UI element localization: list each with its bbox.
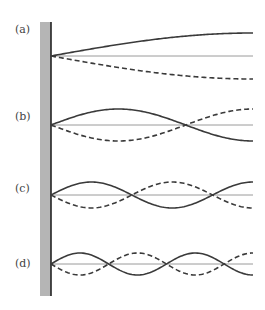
panel-a-wave: [51, 33, 253, 79]
wave-solid: [51, 33, 253, 56]
diagram-canvas: [0, 0, 265, 310]
wave-dashed: [51, 56, 253, 79]
panel-c-wave: [51, 182, 253, 208]
panel-label-c: (c): [15, 182, 30, 195]
panel-b-wave: [51, 109, 253, 141]
wall: [40, 22, 51, 296]
standing-waves-figure: (a) (b) (c) (d): [0, 0, 265, 310]
panel-label-d: (d): [15, 257, 31, 270]
panel-label-b: (b): [15, 110, 31, 123]
panel-label-a: (a): [15, 23, 30, 36]
panel-d-wave: [51, 253, 253, 275]
